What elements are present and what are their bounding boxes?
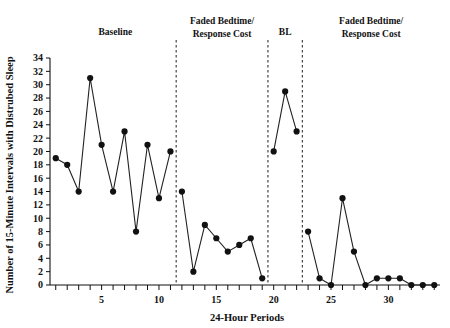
data-point-marker: [282, 88, 288, 94]
data-point-marker: [76, 188, 82, 194]
x-tick-label: 20: [269, 294, 279, 305]
data-point-marker: [87, 75, 93, 81]
data-point-marker: [225, 249, 231, 255]
data-point-marker: [374, 275, 380, 281]
data-point-marker: [133, 228, 139, 234]
y-tick-label: 6: [38, 239, 43, 250]
data-point-marker: [305, 228, 311, 234]
data-point-marker: [408, 282, 414, 288]
data-point-marker: [248, 235, 254, 241]
phase-label: BL: [279, 27, 292, 37]
x-axis-title: 24-Hour Periods: [210, 312, 284, 323]
y-tick-label: 22: [33, 133, 43, 144]
y-tick-label: 16: [33, 173, 43, 184]
x-tick-label: 15: [211, 294, 221, 305]
data-point-marker: [121, 128, 127, 134]
data-point-marker: [202, 222, 208, 228]
phase-label: Response Cost: [342, 29, 402, 39]
y-tick-label: 30: [33, 79, 43, 90]
data-point-marker: [53, 155, 59, 161]
data-point-marker: [271, 148, 277, 154]
data-point-marker: [431, 282, 437, 288]
data-point-marker: [236, 242, 242, 248]
data-point-marker: [328, 282, 334, 288]
y-tick-label: 12: [33, 199, 43, 210]
chart-figure: BaselineFaded Bedtime/Response CostBLFad…: [0, 0, 450, 328]
y-tick-label: 24: [33, 119, 43, 130]
data-point-marker: [339, 195, 345, 201]
data-point-marker: [167, 148, 173, 154]
phase-label: Faded Bedtime/: [190, 16, 254, 26]
x-tick-label: 30: [383, 294, 393, 305]
data-point-marker: [213, 235, 219, 241]
data-point-marker: [316, 275, 322, 281]
x-tick-label: 25: [326, 294, 336, 305]
y-tick-label: 8: [38, 226, 43, 237]
y-tick-label: 32: [33, 66, 43, 77]
y-axis-title: Number of 15-Minute Intervals with Distr…: [4, 56, 15, 293]
y-tick-label: 26: [33, 106, 43, 117]
y-tick-label: 20: [33, 146, 43, 157]
data-point-marker: [64, 162, 70, 168]
data-point-marker: [99, 142, 105, 148]
y-tick-label: 0: [38, 279, 43, 290]
y-tick-label: 10: [33, 213, 43, 224]
data-point-marker: [190, 269, 196, 275]
data-point-marker: [179, 188, 185, 194]
y-tick-label: 18: [33, 159, 43, 170]
data-point-marker: [259, 275, 265, 281]
data-point-marker: [397, 275, 403, 281]
x-tick-label: 5: [99, 294, 104, 305]
data-point-marker: [362, 282, 368, 288]
data-point-marker: [110, 188, 116, 194]
y-tick-label: 2: [38, 266, 43, 277]
single-case-design-line-chart: BaselineFaded Bedtime/Response CostBLFad…: [0, 0, 450, 328]
data-point-marker: [385, 275, 391, 281]
y-tick-label: 34: [33, 52, 43, 63]
data-point-marker: [156, 195, 162, 201]
data-point-marker: [420, 282, 426, 288]
data-point-marker: [294, 128, 300, 134]
data-point-marker: [144, 142, 150, 148]
y-tick-label: 28: [33, 92, 43, 103]
data-point-marker: [351, 249, 357, 255]
phase-label: Baseline: [98, 27, 132, 37]
y-tick-label: 4: [38, 253, 43, 264]
phase-label: Faded Bedtime/: [339, 16, 403, 26]
x-tick-label: 10: [154, 294, 164, 305]
phase-label: Response Cost: [193, 29, 253, 39]
y-tick-label: 14: [33, 186, 43, 197]
